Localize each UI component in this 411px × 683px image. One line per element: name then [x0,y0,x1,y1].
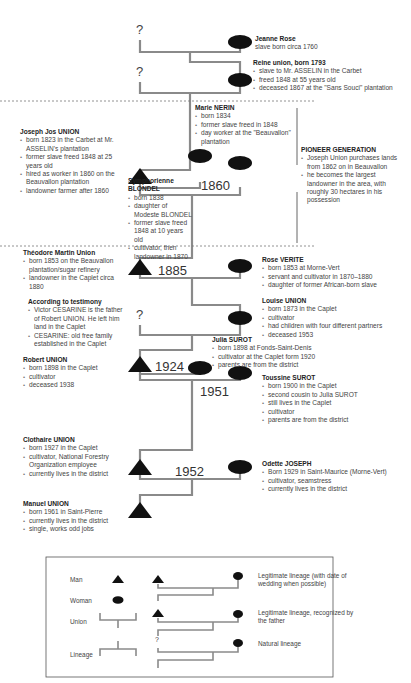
union-line-louise [140,322,240,335]
legend-unknown-mark: ? [155,636,159,644]
woman-icon [188,361,212,375]
pioneer-generation-note: PIONEER GENERATION Joseph Union purchase… [301,146,406,205]
legend-label-man: Man [70,576,82,584]
person-theodore-martin-union: Théodore Martin Union born 1853 on the B… [23,249,123,291]
unknown-father-mark: ? [136,64,143,79]
legend-man-icon [152,575,164,583]
person-julia-surot: Julia SUROT born 1898 at Fonds-Saint-Den… [212,336,332,370]
legend-man-icon [152,609,164,617]
legend-woman-icon [113,596,124,604]
person-toussine-surot: Toussine SUROT born 1900 in the Caplet s… [262,374,407,424]
woman-icon [228,311,252,325]
person-odette-joseph: Odette JOSEPH Born 1929 in Saint-Maurice… [262,460,407,494]
unknown-father-mark: ? [136,22,143,37]
person-manuel-union: Manuel UNION born 1961 in Saint-Pierre c… [23,500,123,534]
union-year: 1860 [201,178,230,193]
person-louise-union: Louise UNION born 1873 in the Caplet cul… [262,297,407,339]
union-line-jeanne-rose [140,40,240,52]
woman-icon [228,156,252,170]
union-line-theodore-rose [140,270,240,278]
legend-man-icon [112,575,124,583]
woman-icon [228,460,252,474]
lineage-line-reine [190,52,240,76]
person-jeanne-rose: Jeanne Rose slave born circa 1760 [255,35,405,52]
man-icon [128,502,152,518]
legend-label-union: Union [70,618,87,626]
lineage-line-joseph [140,93,190,178]
legend-woman-icon [233,610,243,618]
lineage-line-manuel [140,479,192,510]
man-icon [128,356,152,372]
woman-icon [228,73,252,87]
union-year: 1885 [158,263,187,278]
union-year: 1924 [155,359,184,374]
person-robert-union: Robert UNION born 1898 in the Caplet cul… [23,356,123,390]
legend-label-legit-recognized: Legitimate lineage, recognized by the fa… [258,609,358,625]
lineage-line-clothaire [140,380,192,460]
lineage-line-robert [140,335,192,360]
person-symphorienne-blondel: Symphorienne BLONDEL born 1838 daughter … [128,177,192,261]
legend-label-natural: Natural lineage [258,640,353,648]
person-marie-nerin: Marie NERIN born 1834 former slave freed… [195,104,295,146]
person-joseph-jos-union: Joseph Jos UNION born 1823 in the Carbet… [20,128,120,195]
legend-woman-icon [233,572,243,580]
woman-icon [228,35,252,49]
woman-icon [228,259,252,273]
legend-label-legit-wedding: Legitimate lineage (with date of wedding… [258,572,353,588]
legend-label-lineage: Lineage [70,651,93,659]
person-clothaire-union: Clothaire UNION born 1927 in the Caplet … [23,436,123,478]
person-reine-union: Reine union, born 1793 slave to Mr. ASSE… [253,59,403,93]
person-rose-verite: Rose VERITE born 1853 at Morne-Vert serv… [262,256,407,290]
woman-icon [188,149,212,163]
man-icon [128,259,152,275]
union-year: 1951 [200,384,229,399]
legend-woman-icon [233,639,243,647]
union-year: 1952 [175,464,204,479]
testimony-note: According to testimony Victor CESARINE i… [28,298,128,348]
union-line-reine [140,82,240,93]
legend-label-woman: Woman [70,597,92,605]
unknown-father-mark: ? [136,307,143,322]
lineage-line-louise [192,278,240,312]
man-icon [128,459,152,475]
